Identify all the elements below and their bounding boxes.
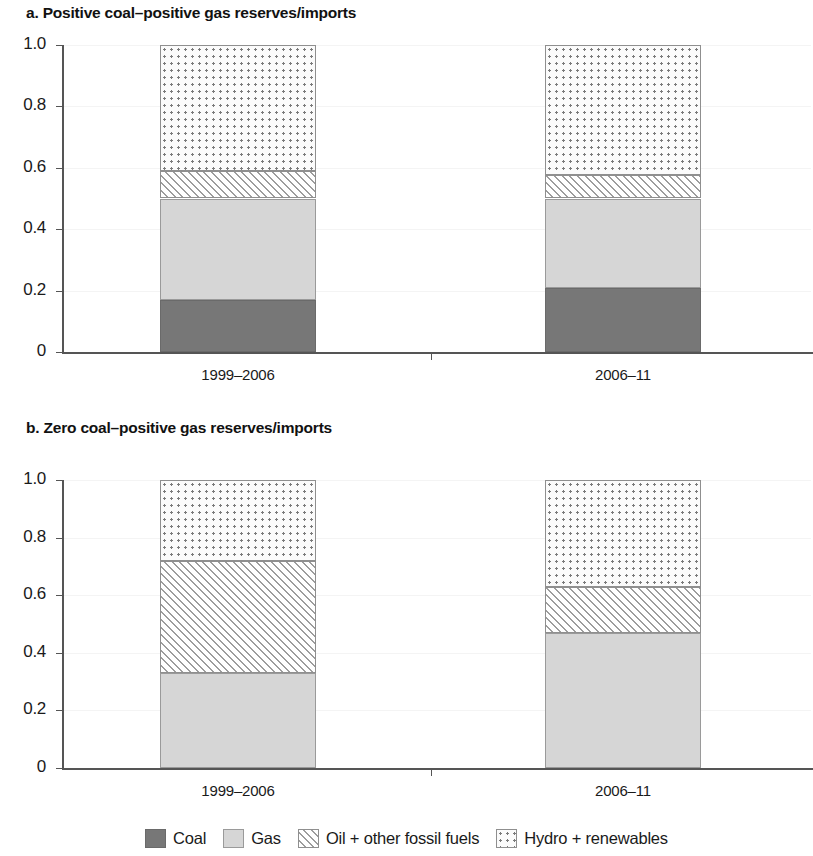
y-axis-tick-label: 0.6 [0,157,46,177]
x-axis-line [62,768,813,770]
bar-segment-hydro [545,45,701,175]
x-axis-tick [431,353,432,360]
stacked-bar [160,480,316,768]
bar-segment-hydro [160,45,316,171]
y-axis-tick [56,45,63,46]
y-axis-line [62,45,64,353]
legend-item-oil: Oil + other fossil fuels [298,829,479,848]
panel-a-plot-area: 00.20.40.60.81.01999–20062006–11 [0,0,813,340]
stacked-bar [545,480,701,768]
solid-dark-gray-swatch [145,829,166,848]
y-axis-tick-label: 0.8 [0,95,46,115]
x-axis-tick-label: 1999–2006 [120,366,356,383]
stacked-bar [160,45,316,352]
bar-segment-hydro [160,480,316,561]
y-axis-tick [56,352,63,353]
y-axis-tick [56,538,63,539]
y-axis-tick [56,168,63,169]
bar-segment-oil [160,171,316,199]
bar-segment-coal [160,300,316,352]
bar-segment-gas [160,673,316,768]
chart-legend: CoalGasOil + other fossil fuelsHydro + r… [0,820,813,856]
y-axis-tick [56,595,63,596]
x-axis-tick-label: 2006–11 [505,782,741,799]
bar-segment-oil [545,587,701,633]
legend-label: Hydro + renewables [524,829,668,848]
x-axis-tick [431,769,432,776]
x-axis-tick-label: 1999–2006 [120,782,356,799]
bar-segment-oil [545,175,701,198]
legend-label: Coal [173,829,206,848]
y-axis-tick [56,653,63,654]
bar-segment-gas [545,199,701,288]
dotted-swatch [496,829,517,848]
y-axis-tick-label: 1.0 [0,469,46,489]
y-axis-tick-label: 0 [0,341,46,361]
y-axis-tick [56,480,63,481]
y-axis-tick-label: 0.8 [0,527,46,547]
y-axis-tick-label: 0.4 [0,218,46,238]
solid-light-gray-swatch [223,829,244,848]
y-axis-tick [56,710,63,711]
stacked-bar [545,45,701,352]
y-axis-tick-label: 0.2 [0,280,46,300]
legend-item-hydro: Hydro + renewables [496,829,668,848]
y-axis-tick-label: 0 [0,757,46,777]
x-axis-line [62,352,813,354]
chart-panel-a: a. Positive coal–positive gas reserves/i… [0,0,813,410]
y-axis-tick-label: 0.2 [0,699,46,719]
legend-label: Oil + other fossil fuels [326,829,479,848]
legend-label: Gas [251,829,281,848]
bar-segment-gas [160,199,316,300]
y-axis-tick [56,768,63,769]
y-axis-tick-label: 0.6 [0,584,46,604]
chart-panel-b: b. Zero coal–positive gas reserves/impor… [0,415,813,815]
y-axis-tick [56,106,63,107]
y-axis-tick-label: 1.0 [0,34,46,54]
bar-segment-coal [545,288,701,352]
y-axis-tick-label: 0.4 [0,642,46,662]
bar-segment-oil [160,561,316,673]
y-axis-line [62,480,64,769]
bar-segment-gas [545,633,701,768]
panel-b-plot-area: 00.20.40.60.81.01999–20062006–11 [0,415,813,755]
diagonal-hatch-swatch [298,829,319,848]
y-axis-tick [56,291,63,292]
x-axis-tick-label: 2006–11 [505,366,741,383]
legend-item-coal: Coal [145,829,206,848]
y-axis-tick [56,229,63,230]
bar-segment-hydro [545,480,701,587]
legend-item-gas: Gas [223,829,281,848]
